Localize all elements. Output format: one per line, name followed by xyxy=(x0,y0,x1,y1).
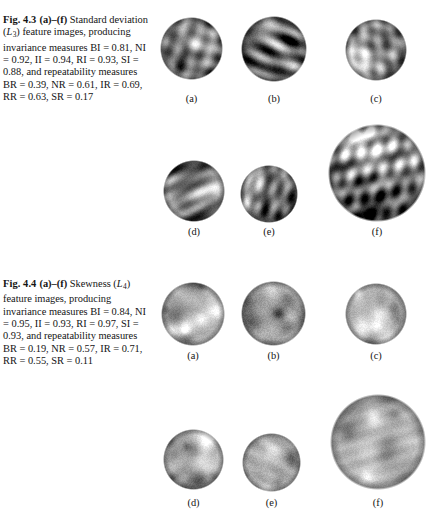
panel-label: (a) xyxy=(160,93,223,105)
feature-image-disc xyxy=(241,281,306,346)
figure-panel-c: (c) xyxy=(345,283,407,345)
panel-label: (b) xyxy=(241,350,306,362)
caption-line: SR = 0.17 xyxy=(51,91,93,102)
feature-image-disc xyxy=(345,19,407,81)
figure-panel-f: (f) xyxy=(328,124,426,222)
feature-image-disc xyxy=(160,17,223,80)
feature-symbol: L3 xyxy=(6,26,16,37)
figure-caption: Fig. 4.4(a)–(f) Skewness (L4) feature im… xyxy=(3,278,149,368)
feature-image-disc xyxy=(163,160,225,222)
feature-image-disc xyxy=(241,16,307,82)
caption-line: BR = 0.19, NR = 0.57, xyxy=(3,343,98,354)
feature-image-disc xyxy=(161,282,225,346)
panel-label: (d) xyxy=(163,497,224,509)
caption-line: BR = 0.39, NR = 0.61, xyxy=(3,79,98,90)
feature-symbol: L4 xyxy=(117,278,127,289)
caption-panel-range: (a)–(f) xyxy=(39,278,67,289)
feature-subscript: 4 xyxy=(123,282,127,291)
figure-panel-d: (d) xyxy=(163,160,225,222)
panel-label: (f) xyxy=(328,226,426,238)
feature-image-disc xyxy=(240,165,298,223)
figure-panel-d: (d) xyxy=(163,429,224,490)
figure-panel-c: (c) xyxy=(345,19,407,81)
figure-number: Fig. 4.4 xyxy=(3,278,36,289)
caption-line: Skewness xyxy=(70,278,111,289)
figure-panel-b: (b) xyxy=(241,281,306,346)
caption-line: repeatability measures xyxy=(44,66,137,77)
feature-image-disc xyxy=(328,124,426,222)
feature-image-disc xyxy=(330,394,426,490)
figure-panel-a: (a) xyxy=(160,17,223,80)
feature-image-disc xyxy=(345,283,407,345)
feature-image-disc xyxy=(163,429,224,490)
figure-panel-f: (f) xyxy=(330,394,426,490)
feature-subscript: 3 xyxy=(13,30,17,39)
panel-label: (d) xyxy=(163,226,225,238)
figure-number: Fig. 4.3 xyxy=(3,14,36,25)
panel-label: (a) xyxy=(161,350,225,362)
panel-label: (e) xyxy=(242,497,301,509)
caption-line: SR = 0.11 xyxy=(51,355,93,366)
caption-line: repeatability measures xyxy=(44,330,137,341)
panel-label: (f) xyxy=(330,497,426,509)
panel-label: (e) xyxy=(240,226,298,238)
caption-line: measures BI = 0.84, xyxy=(49,306,133,317)
caption-line: measures BI = 0.81, xyxy=(49,42,133,53)
figure-panel-a: (a) xyxy=(161,282,225,346)
figure-panel-b: (b) xyxy=(241,16,307,82)
figure-panel-e: (e) xyxy=(240,165,298,223)
panel-label: (c) xyxy=(345,93,407,105)
panel-label: (b) xyxy=(241,93,307,105)
figure-caption: Fig. 4.3(a)–(f) Standard deviation (L3) … xyxy=(3,14,149,104)
caption-line: Standard xyxy=(70,14,107,25)
caption-panel-range: (a)–(f) xyxy=(39,14,67,25)
panel-label: (c) xyxy=(345,350,407,362)
feature-image-disc xyxy=(242,433,301,492)
figure-panel-e: (e) xyxy=(242,433,301,492)
